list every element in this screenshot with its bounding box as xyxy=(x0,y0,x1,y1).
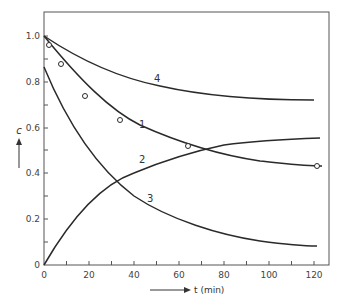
plot-frame xyxy=(44,12,329,265)
curve-4 xyxy=(44,36,314,100)
x-tick-0: 0 xyxy=(41,270,47,280)
data-point xyxy=(47,43,52,48)
x-tick-40: 40 xyxy=(128,270,140,280)
chart: 0 20 40 60 80 100 120 0 0.2 0.4 0.6 0.8 … xyxy=(0,0,341,304)
x-tick-100: 100 xyxy=(260,270,277,280)
x-tick-80: 80 xyxy=(218,270,230,280)
curve-1 xyxy=(44,36,322,166)
data-point xyxy=(118,118,123,123)
data-point xyxy=(83,94,88,99)
x-tick-120: 120 xyxy=(305,270,322,280)
y-axis-label: c xyxy=(16,125,22,168)
x-axis-tick-labels: 0 20 40 60 80 100 120 xyxy=(41,270,323,280)
curve-label-3: 3 xyxy=(147,193,153,204)
x-axis-label: t (min) xyxy=(150,285,224,295)
y-tick-0.2: 0.2 xyxy=(26,214,40,224)
data-point xyxy=(59,62,64,67)
curve-label-1: 1 xyxy=(139,119,145,130)
y-tick-1.0: 1.0 xyxy=(26,31,41,41)
x-tick-20: 20 xyxy=(83,270,95,280)
y-tick-0.4: 0.4 xyxy=(26,168,41,178)
x-axis-ticks xyxy=(67,261,315,265)
svg-text:c: c xyxy=(16,125,22,136)
arrowhead-icon xyxy=(16,138,22,145)
arrowhead-icon xyxy=(184,287,191,293)
svg-text:t (min): t (min) xyxy=(194,285,224,295)
curve-label-2: 2 xyxy=(139,154,145,165)
y-tick-0: 0 xyxy=(34,260,40,270)
y-tick-0.6: 0.6 xyxy=(26,123,41,133)
data-point xyxy=(315,164,320,169)
y-tick-0.8: 0.8 xyxy=(26,77,41,87)
x-tick-60: 60 xyxy=(173,270,185,280)
curve-label-4: 4 xyxy=(154,73,160,84)
data-point xyxy=(186,144,191,149)
y-axis-tick-labels: 0 0.2 0.4 0.6 0.8 1.0 xyxy=(26,31,41,270)
curve-2 xyxy=(44,138,320,265)
